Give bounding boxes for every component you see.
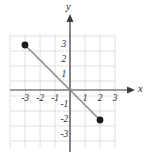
grid-lines-horizontal bbox=[10, 36, 115, 141]
y-tick-label--2: -2 bbox=[60, 115, 68, 125]
data-point-endpoint-a bbox=[22, 42, 29, 49]
y-tick-label-1: 1 bbox=[61, 70, 66, 80]
y-axis-arrowhead bbox=[67, 14, 74, 22]
x-axis-arrowhead bbox=[127, 87, 135, 94]
x-axis-label: x bbox=[138, 84, 143, 95]
x-tick-label--2: -2 bbox=[36, 94, 44, 104]
y-axis-label: y bbox=[66, 2, 71, 13]
data-point-endpoint-b bbox=[97, 117, 104, 124]
y-tick-label--1: -1 bbox=[60, 100, 68, 110]
x-tick-label--1: -1 bbox=[51, 94, 59, 104]
x-tick-label-2: 2 bbox=[98, 94, 103, 104]
y-tick-label-2: 2 bbox=[61, 55, 66, 65]
coordinate-plane-figure: -3 -2 -1 1 2 3 3 2 1 -1 -2 -3 y x bbox=[0, 0, 148, 158]
y-tick-label-3: 3 bbox=[61, 40, 66, 50]
x-tick-label-1: 1 bbox=[83, 94, 88, 104]
x-tick-label--3: -3 bbox=[21, 94, 29, 104]
x-tick-label-3: 3 bbox=[113, 94, 118, 104]
graph-canvas bbox=[0, 0, 148, 158]
y-tick-label--3: -3 bbox=[60, 130, 68, 140]
